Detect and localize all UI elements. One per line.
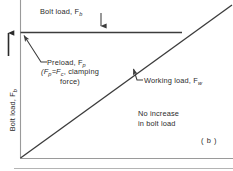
bolt-load-annotation: Bolt load, Fb: [40, 7, 82, 17]
working-load-annotation-text: Working load, F: [144, 76, 198, 85]
clamping-force-annotation: (Fp=Fc, clamping force): [27, 67, 113, 87]
no-increase-line-1: No increase: [138, 109, 179, 118]
preload-leader: [24, 36, 47, 63]
bolt-load-annotation-subscript: b: [79, 11, 82, 17]
clamping-force-word: force): [60, 77, 80, 86]
no-increase-line-2: in bolt load: [138, 119, 176, 128]
preload-annotation-text: Preload, F: [47, 58, 83, 67]
y-axis-label: Bolt load, Fb: [8, 79, 18, 141]
clamping-equals-fc: =F: [52, 67, 61, 76]
y-axis-label-subscript: b: [12, 89, 18, 92]
y-axis-label-text: Bolt load, F: [8, 92, 17, 131]
working-load-annotation: Working load, Fw: [144, 76, 202, 86]
bolt-load-annotation-text: Bolt load, F: [40, 7, 79, 16]
clamping-word: , clamping: [64, 67, 99, 76]
clamping-sub-p: p: [48, 71, 51, 77]
bolt-load-figure: Bolt load, Fb Preload, Fp (Fp=Fc, clampi…: [0, 0, 233, 171]
working-load-annotation-subscript: w: [198, 80, 202, 86]
no-increase-note: No increase in bolt load: [138, 109, 200, 128]
clamping-sub-c: c: [61, 71, 64, 77]
figure-part-label: ( b ): [201, 136, 217, 145]
